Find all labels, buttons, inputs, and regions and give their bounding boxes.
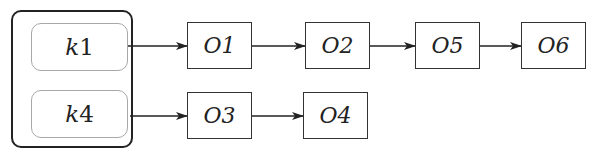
diagram-canvas: k1 k4 O1 O2 O5 O6 O3 O4 [0, 0, 598, 163]
object-node-o6: O6 [521, 22, 586, 69]
object-node-o4: O4 [303, 92, 368, 139]
object-node-o5: O5 [415, 22, 480, 69]
object-node-o2: O2 [305, 22, 370, 69]
object-node-o3: O3 [187, 92, 252, 139]
arrows-layer [0, 0, 598, 163]
object-node-o1: O1 [187, 22, 252, 69]
